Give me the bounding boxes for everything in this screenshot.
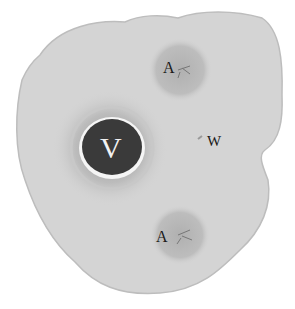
artery-top xyxy=(148,38,212,102)
label-artery-top: A xyxy=(163,60,175,76)
label-artery-bottom: A xyxy=(156,229,168,245)
label-wharton-jelly: W xyxy=(207,134,221,149)
label-vein: V xyxy=(100,133,122,163)
cord-cross-section xyxy=(0,0,295,309)
histology-figure: V A W A xyxy=(0,0,295,309)
